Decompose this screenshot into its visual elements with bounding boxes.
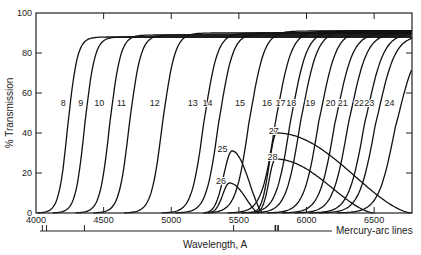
y-tick-label: 40 [22,128,32,138]
curve-label-12: 12 [150,98,160,108]
curve-label-23: 23 [364,98,374,108]
curve-24 [337,70,412,213]
curve-23 [319,38,412,213]
curve-label-10: 10 [94,98,104,108]
x-tick-label: 4000 [26,215,46,225]
transmission-chart: 8910111213141516171819202122232425262728… [0,0,421,255]
curve-label-24: 24 [384,98,394,108]
mercury-arc-label: Mercury-arc lines [336,225,413,236]
x-tick-label: 5500 [229,215,249,225]
x-tick-label: 6500 [364,215,384,225]
curve-label-17: 17 [276,98,286,108]
y-axis-label: % Transmission [4,78,15,149]
curve-label-11: 11 [117,98,126,108]
x-axis-label: Wavelength, A [183,239,247,250]
curve-label-28: 28 [267,152,277,162]
curve-27 [252,133,411,213]
curve-label-27: 27 [269,126,279,136]
curve-13 [162,33,412,213]
curve-label-25: 25 [217,144,227,154]
curve-21 [294,33,411,213]
curve-label-20: 20 [326,98,336,108]
curve-label-13: 13 [188,98,198,108]
curve-15 [203,31,412,213]
curve-label-18: 18 [286,98,296,108]
y-tick-label: 60 [22,88,32,98]
curve-18 [250,31,411,213]
curve-label-8: 8 [61,98,66,108]
curve-label-14: 14 [203,98,213,108]
curve-label-21: 21 [338,98,348,108]
curve-label-15: 15 [235,98,245,108]
curve-label-9: 9 [78,98,83,108]
curve-label-19: 19 [305,98,315,108]
curve-9 [53,37,412,213]
curve-label-22: 22 [354,98,364,108]
mercury-arc-scale [40,225,332,231]
x-tick-label: 5000 [161,215,181,225]
curve-label-26: 26 [216,176,226,186]
y-tick-label: 20 [22,168,32,178]
x-tick-label: 6000 [296,215,316,225]
y-tick-label: 80 [22,48,32,58]
curve-label-16: 16 [262,98,272,108]
x-tick-label: 4500 [94,215,114,225]
curve-17 [241,31,412,213]
curve-10 [76,35,411,213]
y-tick-label: 100 [17,8,32,18]
